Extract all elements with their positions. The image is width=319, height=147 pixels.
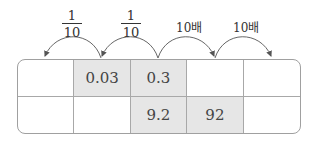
table-cell-r2c2 xyxy=(74,97,130,134)
fraction-numerator: 1 xyxy=(60,9,84,23)
table-cell-r1c5 xyxy=(244,60,300,97)
arc-arrow-3-right xyxy=(158,37,214,58)
fraction-denominator: 10 xyxy=(119,24,143,39)
fraction-label-1: 1 10 xyxy=(60,9,84,39)
table-cell-r1c3: 0.3 xyxy=(131,60,187,97)
table-cell-r1c4 xyxy=(187,60,243,97)
fraction-denominator: 10 xyxy=(60,24,84,39)
arc-arrow-4-right xyxy=(215,37,271,58)
arrow-arcs xyxy=(0,0,319,60)
fraction-label-2: 1 10 xyxy=(119,9,143,39)
times-ten-label-1: 10배 xyxy=(176,21,202,35)
times-ten-label-2: 10배 xyxy=(233,21,259,35)
fraction-numerator: 1 xyxy=(119,9,143,23)
table-cell-r2c1 xyxy=(18,97,74,134)
table-cell-r2c4: 92 xyxy=(187,97,243,134)
table-cell-r1c1 xyxy=(18,60,74,97)
table-cell-r2c5 xyxy=(244,97,300,134)
table-cell-r2c3: 9.2 xyxy=(131,97,187,134)
place-value-table: 0.03 0.3 9.2 92 xyxy=(17,59,301,134)
table-cell-r1c2: 0.03 xyxy=(74,60,130,97)
